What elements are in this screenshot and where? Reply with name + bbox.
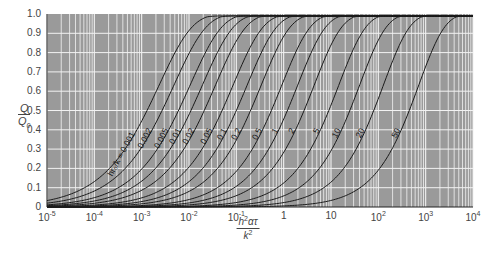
y-axis-label-numerator: Q xyxy=(18,102,30,115)
y-den-text: Q xyxy=(18,115,27,127)
y-tick-label: 0.9 xyxy=(11,27,41,38)
y-tick-label: 0.1 xyxy=(11,182,41,193)
y-tick-label: 0.6 xyxy=(11,85,41,96)
x-axis-label: h2ατ k2 xyxy=(237,215,260,241)
y-tick-label: 0.2 xyxy=(11,162,41,173)
y-tick-label: 0 xyxy=(11,201,41,212)
y-den-sub: 0 xyxy=(27,122,31,129)
y-tick-label: 1.0 xyxy=(11,8,41,19)
x-tick-label: 10-4 xyxy=(86,210,103,223)
x-tick-label: 10 xyxy=(325,210,336,221)
x-tick-label: 10-3 xyxy=(133,210,150,223)
x-tick-label: 10-5 xyxy=(38,210,55,223)
x-tick-label: 10-2 xyxy=(180,210,197,223)
y-tick-label: 0.8 xyxy=(11,47,41,58)
y-tick-label: 0.7 xyxy=(11,66,41,77)
x-tick-label: 102 xyxy=(371,210,386,223)
x-axis-label-denominator: k2 xyxy=(244,230,253,241)
x-tick-label: 103 xyxy=(418,210,433,223)
y-tick-label: 0.3 xyxy=(11,143,41,154)
y-axis-label-denominator: Q0 xyxy=(18,115,30,127)
y-axis-label: Q Q0 xyxy=(18,102,30,129)
x-axis-label-numerator: h2ατ xyxy=(237,215,260,229)
x-tick-label: 104 xyxy=(465,210,480,223)
x-num-rest: ατ xyxy=(248,216,257,227)
x-den-sup: 2 xyxy=(249,229,253,236)
x-tick-label: 1 xyxy=(281,210,287,221)
